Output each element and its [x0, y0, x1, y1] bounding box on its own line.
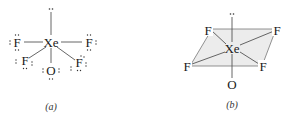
- atom-f-bottom-left: F: [183, 59, 190, 74]
- xeof4-diagram: Xe F F F F O: [0, 0, 285, 120]
- caption-a: (a): [45, 101, 57, 113]
- bond-xe-f-lower-right: [57, 47, 75, 60]
- atom-f-lower-right: F: [75, 55, 82, 70]
- atom-f-top-right: F: [273, 23, 280, 38]
- atom-f-bottom-right: F: [259, 59, 266, 74]
- lone-pair-dot: [52, 8, 54, 10]
- atom-f-left: F: [13, 35, 20, 50]
- atom-xe: Xe: [224, 41, 239, 56]
- panel-b: F F F F Xe O (b): [182, 13, 282, 111]
- atom-f-top-left: F: [204, 23, 211, 38]
- panel-a: Xe F F F F O: [9, 8, 96, 113]
- atom-o: O: [227, 77, 236, 92]
- atom-o: O: [46, 63, 55, 78]
- atom-f-lower-left: F: [21, 53, 28, 68]
- lone-pair-dot: [49, 8, 51, 10]
- atom-xe: Xe: [43, 35, 58, 50]
- caption-b: (b): [226, 99, 238, 111]
- lone-pair-dot: [233, 13, 235, 15]
- lone-pair-dot: [230, 13, 232, 15]
- atom-f-right: F: [85, 35, 92, 50]
